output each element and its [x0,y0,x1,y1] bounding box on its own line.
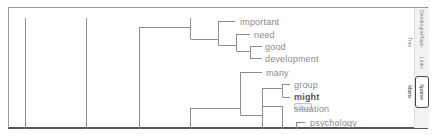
leaf-label[interactable]: good [265,42,286,52]
leaf-label[interactable]: development [265,54,319,64]
leaf-label[interactable]: important [240,17,279,27]
leaf-label[interactable]: situation [294,104,329,114]
tab-topic-tree[interactable]: Topic Tree [416,32,428,52]
leaf-label[interactable]: group [294,80,318,90]
dendrogram-branches [0,0,436,138]
leaf-label[interactable]: many [266,68,289,78]
leaf-label-selected[interactable]: might [294,92,320,102]
leaf-label[interactable]: need [254,30,275,40]
tab-sparse-matrix[interactable]: Sparse Matrix [415,76,429,108]
tab-links[interactable]: Links [416,54,428,72]
view-tabs: Dendrogram Topic Tree Links Sparse Matri… [414,8,429,128]
tab-dendrogram[interactable]: Dendrogram [416,10,428,30]
leaf-label[interactable]: psychology [310,118,357,128]
